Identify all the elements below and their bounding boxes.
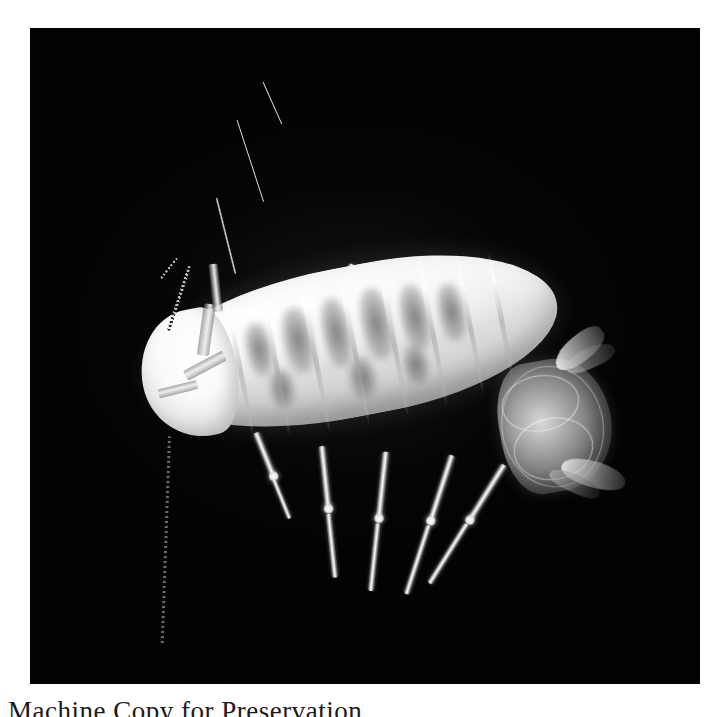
photo-background bbox=[30, 28, 700, 684]
leg-segment bbox=[403, 525, 432, 596]
antenna-right-flagellum-tip bbox=[236, 120, 264, 202]
pleotelson bbox=[489, 348, 635, 507]
caption-text: Machine Copy for Preservation bbox=[8, 700, 727, 717]
leg-segment bbox=[467, 463, 508, 522]
leg-segment bbox=[318, 446, 332, 508]
page-canvas: Machine Copy for Preservation bbox=[0, 0, 727, 717]
antenna-right-flagellum bbox=[215, 198, 237, 274]
leg-segment bbox=[325, 514, 339, 578]
specimen-photograph bbox=[30, 28, 700, 684]
leg-segment bbox=[367, 523, 381, 591]
antenna-right-flagellum-end bbox=[262, 82, 283, 125]
leg-segment bbox=[375, 451, 390, 517]
leg-lower-3 bbox=[367, 451, 394, 591]
caption: Machine Copy for Preservation bbox=[8, 700, 727, 717]
leg-segment bbox=[271, 478, 292, 519]
leg-joint bbox=[374, 513, 385, 524]
leg-joint bbox=[323, 503, 334, 514]
leg-lower-2 bbox=[318, 445, 344, 578]
antenna-left-flagellum-tip bbox=[160, 257, 178, 279]
leg-segment bbox=[427, 454, 456, 521]
